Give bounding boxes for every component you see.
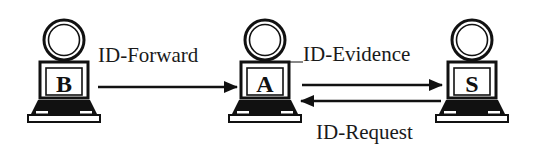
- node-a: A: [229, 20, 301, 122]
- node-s-label: S: [465, 71, 478, 97]
- node-s: S: [436, 20, 508, 122]
- edge-label-id-evidence: ID-Evidence: [303, 42, 410, 66]
- edge-a-to-s: ID-Evidence: [288, 42, 442, 85]
- edge-label-id-request: ID-Request: [316, 120, 413, 144]
- node-b-label: B: [56, 71, 72, 97]
- edge-b-to-a: ID-Forward: [98, 43, 237, 87]
- edge-s-to-a: ID-Request: [301, 101, 441, 144]
- diagram-canvas: B A S ID-Forward ID-Evidence ID-Request: [0, 0, 537, 154]
- node-b: B: [28, 20, 100, 122]
- node-a-label: A: [256, 71, 274, 97]
- edge-label-id-forward: ID-Forward: [98, 43, 199, 67]
